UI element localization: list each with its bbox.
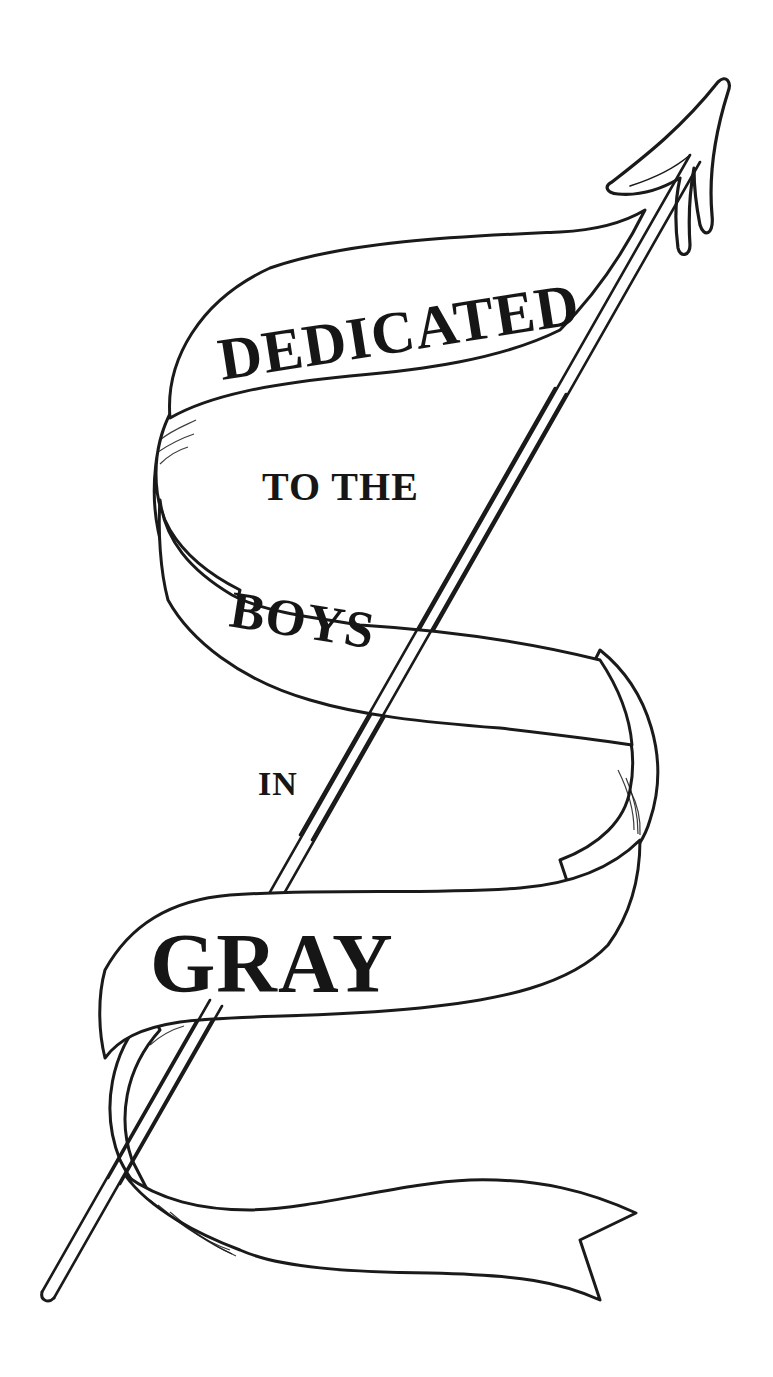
dedication-illustration: DEDICATED TO THE BOYS IN GRAY: [0, 0, 773, 1377]
text-to-the: TO THE: [262, 464, 419, 509]
ribbon-front-segments: [100, 210, 645, 1300]
arrow-shaft-tail-cap: [42, 1292, 54, 1301]
text-in: IN: [258, 765, 298, 802]
ribbon-back-segments: [110, 410, 658, 1195]
ribbon-shading: [150, 420, 640, 1256]
text-gray: GRAY: [150, 917, 394, 1010]
